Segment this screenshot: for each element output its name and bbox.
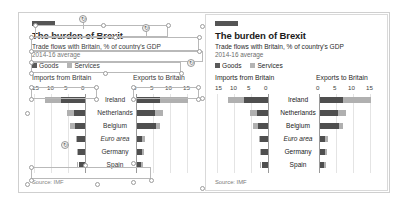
- tick-left-5: 5: [247, 84, 250, 91]
- table-row: Netherlands: [32, 107, 194, 118]
- panel-headings: Imports from Britain Exports to Britain: [215, 74, 380, 83]
- chart-plot-area: Ireland Netherlands Belgium: [32, 94, 194, 173]
- table-row: Germany: [215, 146, 380, 157]
- bar-import-services: [250, 110, 258, 117]
- chart-period: 2014-16 average: [215, 51, 380, 59]
- tick-left-10: 10: [230, 84, 237, 91]
- panel-title-imports: Imports from Britain: [215, 74, 274, 81]
- legend-swatch-goods-icon: [215, 63, 220, 68]
- resize-handle[interactable]: [29, 60, 34, 65]
- bar-export-goods: [137, 110, 155, 117]
- panel-title-exports: Exports to Britain: [316, 74, 368, 81]
- bar-export-services: [324, 162, 326, 169]
- rotate-handle-icon[interactable]: ↻: [187, 59, 195, 67]
- resize-handle[interactable]: [29, 97, 34, 102]
- resize-handle[interactable]: [131, 97, 136, 102]
- resize-handle[interactable]: [149, 178, 154, 183]
- resize-handle[interactable]: [83, 163, 88, 168]
- resize-handle[interactable]: [33, 23, 38, 28]
- chart-legend: Goods Services: [215, 62, 380, 69]
- table-row: Spain: [215, 159, 380, 170]
- resize-handle[interactable]: [95, 182, 100, 187]
- panel-title-exports: Exports to Britain: [133, 74, 185, 81]
- table-row: Netherlands: [215, 107, 380, 118]
- selection-box-panel-title-right[interactable]: [133, 87, 199, 99]
- legend-item-goods: Goods: [215, 62, 241, 69]
- chart-source: Source: IMF: [215, 179, 247, 185]
- chart-card-rendered[interactable]: The burden of Brexit Trade flows with Br…: [205, 14, 388, 191]
- bar-import-goods: [78, 149, 85, 156]
- tick-right-5: 5: [333, 84, 336, 91]
- resize-handle[interactable]: [29, 165, 34, 170]
- legend-label-services: Services: [257, 62, 282, 69]
- tick-right-15: 15: [366, 84, 373, 91]
- bar-import-goods: [75, 123, 85, 130]
- chart-card-editing[interactable]: The burden of Brexit Trade flows with Br…: [22, 14, 202, 191]
- resize-handle[interactable]: [29, 49, 34, 54]
- bar-export-services: [142, 149, 143, 156]
- resize-handle[interactable]: [29, 71, 34, 76]
- resize-handle[interactable]: [94, 97, 99, 102]
- resize-handle[interactable]: [25, 182, 30, 187]
- resize-handle[interactable]: [131, 180, 136, 185]
- resize-handle[interactable]: [29, 35, 34, 40]
- rotate-handle-icon[interactable]: ↻: [79, 15, 87, 23]
- table-row: Euro area: [32, 133, 194, 144]
- panel-headings: Imports from Britain Exports to Britain: [32, 74, 194, 83]
- bar-export-goods: [320, 110, 338, 117]
- bar-import-goods: [77, 136, 85, 143]
- resize-handle[interactable]: [29, 85, 34, 90]
- category-label: Euro area: [273, 133, 323, 144]
- category-label: Belgium: [90, 120, 140, 131]
- resize-handle[interactable]: [113, 35, 118, 40]
- category-label: Euro area: [90, 133, 140, 144]
- category-label: Ireland: [273, 94, 323, 105]
- resize-handle[interactable]: [25, 111, 30, 116]
- bar-import-goods: [257, 110, 268, 117]
- panel-title-imports: Imports from Britain: [32, 74, 91, 81]
- table-row: Euro area: [215, 133, 380, 144]
- bar-export-services: [343, 97, 371, 104]
- rotate-handle-icon[interactable]: ↻: [142, 24, 150, 32]
- tick-right-10: 10: [348, 84, 355, 91]
- category-label: Spain: [273, 159, 323, 170]
- chart-subtitle: Trade flows with Britain, % of country's…: [215, 43, 380, 51]
- resize-handle[interactable]: [131, 161, 136, 166]
- category-label: Germany: [273, 146, 323, 157]
- bar-export-services: [155, 110, 163, 117]
- bar-import-goods: [261, 149, 268, 156]
- bar-import-services: [67, 110, 75, 117]
- table-row: Belgium: [215, 120, 380, 131]
- bar-export-services: [142, 136, 145, 143]
- slide-canvas[interactable]: The burden of Brexit Trade flows with Br…: [0, 0, 408, 207]
- category-label: Germany: [90, 146, 140, 157]
- resize-handle[interactable]: [94, 85, 99, 90]
- resize-handle[interactable]: [29, 178, 34, 183]
- bar-export-services: [156, 123, 160, 130]
- bar-import-services: [228, 97, 244, 104]
- resize-handle[interactable]: [197, 49, 202, 54]
- resize-handle[interactable]: [196, 85, 201, 90]
- rotate-handle-icon[interactable]: ↻: [61, 141, 69, 149]
- resize-handle[interactable]: [166, 23, 171, 28]
- bar-import-goods: [258, 123, 268, 130]
- bar-import-goods: [74, 110, 85, 117]
- bar-export-goods: [320, 123, 339, 130]
- resize-handle[interactable]: [103, 71, 108, 76]
- table-row: Belgium: [32, 120, 194, 131]
- category-label: Netherlands: [273, 107, 323, 118]
- tick-right-0: 0: [316, 84, 319, 91]
- selection-box-subtitle[interactable]: [31, 51, 203, 62]
- selection-box-source[interactable]: [31, 167, 151, 179]
- resize-handle[interactable]: [197, 35, 202, 40]
- selection-box-panel-title-left[interactable]: [31, 87, 97, 99]
- table-row: Ireland: [215, 94, 380, 105]
- bar-export-services: [325, 136, 328, 143]
- legend-swatch-services-icon: [250, 63, 255, 68]
- brand-tag-icon: [215, 21, 238, 26]
- bar-export-services: [339, 123, 343, 130]
- resize-handle[interactable]: [101, 23, 106, 28]
- bar-import-goods: [244, 97, 268, 104]
- resize-handle[interactable]: [131, 85, 136, 90]
- resize-handle[interactable]: [179, 71, 184, 76]
